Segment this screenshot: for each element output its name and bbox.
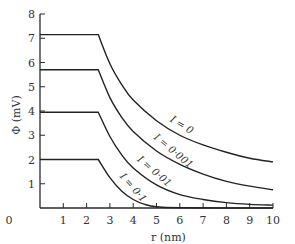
curves — [40, 35, 273, 208]
y-axis-label: Φ (mV) — [10, 95, 23, 134]
chart: 12345678012345678910 r (nm)Φ (mV)I = 0I … — [0, 0, 295, 244]
y-tick-label: 2 — [28, 154, 35, 167]
y-tick-label: 5 — [28, 81, 35, 94]
labels: r (nm)Φ (mV)I = 0I = 0·001I = 0·01I = 0·… — [10, 95, 196, 244]
x-tick-label: 0 — [6, 214, 13, 227]
x-tick-label: 1 — [60, 214, 67, 227]
x-tick-label: 8 — [223, 214, 230, 227]
series-line — [40, 112, 273, 205]
y-tick-label: 6 — [28, 57, 35, 70]
series-label: I = 0·001 — [151, 131, 195, 170]
y-tick-label: 8 — [28, 8, 35, 21]
x-tick-label: 4 — [130, 214, 137, 227]
x-tick-label: 6 — [176, 214, 183, 227]
x-axis-label: r (nm) — [151, 231, 186, 244]
y-tick-label: 4 — [28, 105, 35, 118]
x-tick-label: 2 — [83, 214, 90, 227]
y-tick-label: 7 — [28, 32, 35, 45]
series-label: I = 0 — [168, 113, 196, 136]
y-tick-label: 3 — [28, 129, 35, 142]
x-tick-label: 3 — [106, 214, 113, 227]
x-tick-label: 9 — [246, 214, 253, 227]
x-tick-label: 5 — [153, 214, 160, 227]
x-tick-label: 10 — [266, 214, 280, 227]
y-tick-label: 1 — [28, 178, 35, 191]
x-tick-label: 7 — [200, 214, 207, 227]
